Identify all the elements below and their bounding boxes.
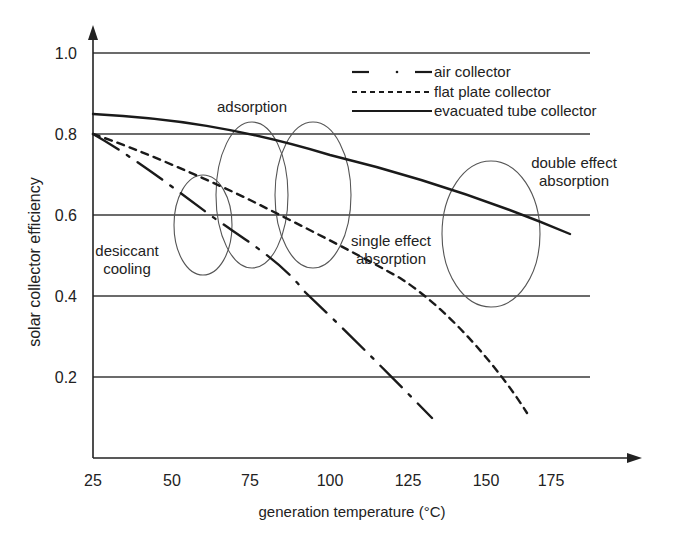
legend-label-flat-plate-collector: flat plate collector (434, 83, 551, 100)
x-tick: 75 (241, 472, 259, 489)
legend-air-collector-dot (396, 71, 399, 74)
single-effect-absorption-label: single effect (351, 232, 432, 249)
desiccant-cooling-label: cooling (103, 260, 151, 277)
single-effect-absorption-label: absorption (356, 250, 426, 267)
x-tick-labels: 25 50 75 100 125 150 175 (84, 472, 564, 489)
x-tick: 150 (473, 472, 500, 489)
y-tick: 0.2 (55, 369, 77, 386)
x-axis-title: generation temperature (°C) (259, 503, 446, 520)
x-tick: 125 (395, 472, 422, 489)
double-effect-absorption-label: absorption (539, 172, 609, 189)
x-tick: 25 (84, 472, 102, 489)
y-tick: 0.8 (55, 126, 77, 143)
legend-label-air-collector: air collector (434, 63, 511, 80)
series-lines (93, 114, 570, 418)
legend: air collector flat plate collector evacu… (352, 63, 597, 119)
x-tick: 50 (163, 472, 181, 489)
desiccant-cooling-label: desiccant (95, 242, 159, 259)
adsorption-label: adsorption (217, 98, 287, 115)
evacuated-tube-collector-line (93, 114, 570, 234)
y-tick: 1.0 (55, 45, 77, 62)
double-effect-absorption-label: double effect (531, 154, 617, 171)
y-tick: 0.6 (55, 207, 77, 224)
legend-label-evacuated-tube-collector: evacuated tube collector (434, 102, 597, 119)
legend-item-air-collector: air collector (352, 63, 511, 80)
y-axis-title: solar collector efficiency (26, 177, 43, 347)
legend-item-flat-plate-collector: flat plate collector (352, 83, 551, 100)
legend-item-evacuated-tube-collector: evacuated tube collector (352, 102, 597, 119)
efficiency-chart: 1.0 0.8 0.6 0.4 0.2 25 50 75 100 125 150… (0, 0, 673, 538)
y-tick-labels: 1.0 0.8 0.6 0.4 0.2 (55, 45, 77, 386)
x-tick: 175 (538, 472, 565, 489)
y-axis-arrow-icon (88, 25, 98, 40)
y-tick: 0.4 (55, 288, 77, 305)
x-tick: 100 (317, 472, 344, 489)
x-axis-arrow-icon (627, 453, 642, 463)
double-effect-absorption-ellipse (442, 161, 540, 307)
